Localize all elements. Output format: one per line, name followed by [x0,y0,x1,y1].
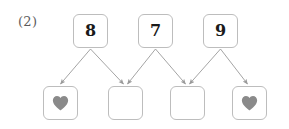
arrow-top-3-to-bottom-4 [221,49,248,84]
heart-icon [52,95,69,111]
arrow-top-3-to-bottom-3 [190,49,221,84]
arrow-top-2-to-bottom-2 [128,49,156,84]
answer-cell-bottom-3[interactable] [170,86,205,120]
cell-value: 9 [215,23,226,39]
addend-cell-top-1[interactable]: 8 [73,14,108,48]
addend-cell-top-3[interactable]: 9 [203,14,238,48]
arrow-top-1-to-bottom-2 [91,49,124,84]
answer-cell-bottom-4[interactable] [232,86,267,120]
arrow-top-1-to-bottom-1 [61,49,91,84]
answer-cell-bottom-1[interactable] [43,86,78,120]
cell-value: 8 [85,23,96,39]
worksheet-canvas: (2) 879 [0,0,289,129]
addend-cell-top-2[interactable]: 7 [138,14,173,48]
arrow-group [61,49,248,84]
cell-value: 7 [150,23,161,39]
problem-number-label: (2) [18,14,37,29]
answer-cell-bottom-2[interactable] [108,86,143,120]
heart-icon [241,95,258,111]
arrow-top-2-to-bottom-3 [156,49,186,84]
